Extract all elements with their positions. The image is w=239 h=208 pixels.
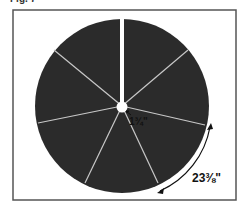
inner-radius-label: 1¾" (129, 116, 148, 127)
arc-length-label: 23⅜" (192, 171, 221, 185)
opening-slit (120, 14, 124, 104)
tree-skirt-diagram: 1¾" 23⅜" (0, 0, 239, 208)
